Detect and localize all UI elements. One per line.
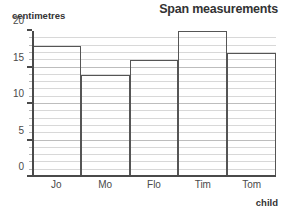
plot-area: 05101520 bbox=[32, 31, 276, 177]
y-axis-tick bbox=[27, 102, 32, 104]
x-axis-tick-label: Tim bbox=[178, 179, 227, 190]
y-axis-minor-tick bbox=[29, 132, 32, 133]
y-axis-minor-tick bbox=[29, 59, 32, 60]
y-axis-minor-tick bbox=[29, 52, 32, 53]
x-axis-tick-label: Mo bbox=[81, 179, 130, 190]
y-axis-minor-tick bbox=[29, 125, 32, 126]
y-axis-tick bbox=[27, 66, 32, 68]
y-axis-tick-label: 5 bbox=[18, 124, 24, 135]
y-axis-minor-tick bbox=[29, 74, 32, 75]
y-axis-minor-tick bbox=[29, 154, 32, 155]
y-axis-tick-label: 15 bbox=[13, 51, 24, 62]
axis-frame bbox=[32, 31, 276, 177]
y-axis-minor-tick bbox=[29, 161, 32, 162]
y-axis-tick-label: 0 bbox=[18, 161, 24, 172]
y-axis-tick-label: 10 bbox=[13, 88, 24, 99]
y-axis-minor-tick bbox=[29, 118, 32, 119]
y-axis-tick bbox=[27, 29, 32, 31]
x-axis-tick-label: Tom bbox=[227, 179, 276, 190]
chart-title: Span measurements bbox=[159, 2, 278, 16]
y-axis-minor-tick bbox=[29, 45, 32, 46]
y-axis-minor-tick bbox=[29, 169, 32, 170]
x-axis-tick-label: Jo bbox=[32, 179, 81, 190]
y-axis-minor-tick bbox=[29, 110, 32, 111]
y-axis-minor-tick bbox=[29, 88, 32, 89]
bar-chart: Span measurements centimetres child 0510… bbox=[0, 0, 286, 209]
y-axis-minor-tick bbox=[29, 96, 32, 97]
x-axis-label: child bbox=[256, 197, 278, 208]
y-axis-minor-tick bbox=[29, 37, 32, 38]
x-axis-tick-label: Flo bbox=[130, 179, 179, 190]
y-axis-tick bbox=[27, 175, 32, 177]
y-axis-minor-tick bbox=[29, 81, 32, 82]
y-axis-tick-label: 20 bbox=[13, 15, 24, 26]
y-axis-tick bbox=[27, 139, 32, 141]
y-axis-minor-tick bbox=[29, 147, 32, 148]
x-axis-tick-labels: JoMoFloTimTom bbox=[32, 179, 276, 190]
